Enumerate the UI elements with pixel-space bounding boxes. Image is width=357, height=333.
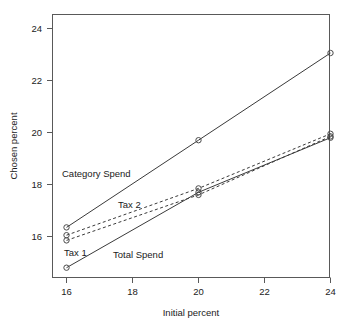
- series-label-tax-2: Tax 2: [118, 199, 141, 210]
- y-axis-title: Chosen percent: [8, 112, 19, 179]
- y-axis-ticks: [47, 29, 53, 237]
- y-tick-label-24: 24: [31, 23, 42, 34]
- series-label-tax-1: Tax 1: [64, 247, 87, 258]
- series-line-total-spend: [67, 138, 331, 268]
- series-tax-2: [64, 131, 333, 238]
- y-tick-label-22: 22: [31, 75, 42, 86]
- x-axis-tick-labels: 16 18 20 22 24: [61, 286, 336, 297]
- x-tick-label-22: 22: [259, 286, 270, 297]
- series-line-category-spend: [67, 53, 331, 227]
- x-tick-label-16: 16: [61, 286, 72, 297]
- chart-figure: 24 22 20 18 16 16 18 20 22 24 Initial pe…: [0, 0, 357, 333]
- plot-frame: [53, 15, 330, 278]
- y-tick-label-18: 18: [31, 179, 42, 190]
- chart-plot-area: 24 22 20 18 16 16 18 20 22 24 Initial pe…: [0, 0, 357, 333]
- x-tick-label-18: 18: [127, 286, 138, 297]
- y-tick-label-16: 16: [31, 231, 42, 242]
- x-tick-label-24: 24: [325, 286, 336, 297]
- x-tick-label-20: 20: [193, 286, 204, 297]
- series-label-total-spend: Total Spend: [113, 249, 163, 260]
- y-axis-tick-labels: 24 22 20 18 16: [31, 23, 42, 242]
- x-axis-title: Initial percent: [163, 307, 220, 318]
- series-label-category-spend: Category Spend: [62, 168, 131, 179]
- y-tick-label-20: 20: [31, 127, 42, 138]
- x-axis-ticks: [67, 278, 331, 284]
- series-category-spend: [64, 50, 333, 230]
- series-line-tax-2: [67, 134, 331, 235]
